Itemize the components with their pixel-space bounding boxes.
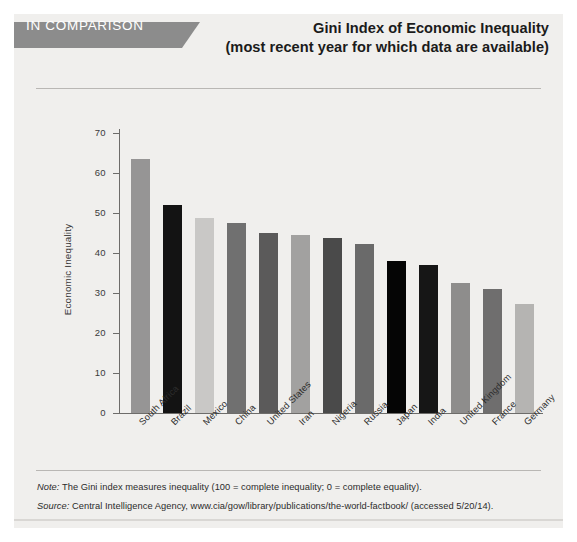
bar [451, 283, 470, 413]
figure-panel: IN COMPARISON Gini Index of Economic Ine… [14, 14, 563, 528]
footer-divider [36, 470, 541, 471]
bar [515, 304, 534, 413]
bar [227, 223, 246, 413]
bar [419, 265, 438, 413]
y-tick-0 [113, 413, 120, 414]
bar [131, 159, 150, 413]
note-text: The Gini index measures inequality (100 … [59, 482, 421, 492]
note-label: Note: [37, 482, 59, 492]
bar [387, 261, 406, 413]
chart-plot-area: Economic Inequality 010203040506070 Sout… [14, 14, 563, 528]
figure-bottom-edge [14, 519, 563, 521]
bar [323, 238, 342, 413]
note-footnote: Note: The Gini index measures inequality… [37, 482, 422, 492]
source-label: Source: [37, 501, 69, 511]
bars-layer [14, 14, 563, 413]
bar [163, 205, 182, 413]
source-text: Central Intelligence Agency, www.cia/gow… [69, 501, 493, 511]
bar [355, 244, 374, 413]
source-footnote: Source: Central Intelligence Agency, www… [37, 501, 493, 511]
bar [259, 233, 278, 413]
bar [195, 218, 214, 413]
